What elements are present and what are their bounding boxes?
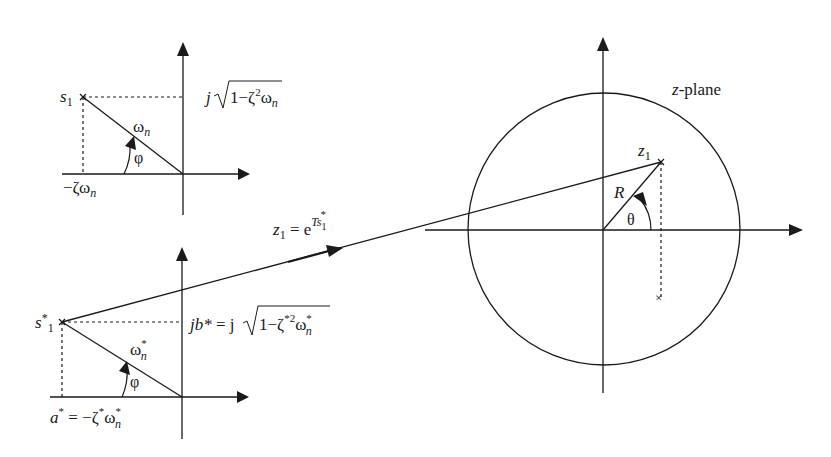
svg-text:jb* = j: jb* = j — [188, 315, 235, 334]
s-to-z-plane-mapping-diagram: s1 j 1−ζ2ωn −ζωn ωn φ s*1 jb* = j 1−ζ*2ω… — [0, 0, 831, 457]
bottom-s-real-label: a* = −ζ*ω*n — [50, 405, 121, 431]
z-angle-label: θ — [627, 211, 635, 228]
mapping-arrow-head-icon — [326, 245, 343, 257]
top-s-angle-arrow-icon — [125, 136, 136, 150]
svg-text:1−ζ2ωn: 1−ζ2ωn — [230, 86, 278, 110]
top-s-imag-axis-arrow-icon — [177, 42, 189, 56]
z-plane: × z-plane z1 R θ — [425, 37, 803, 393]
top-s-magnitude-label: ωn — [133, 117, 150, 139]
bottom-s-angle-label: φ — [130, 373, 139, 391]
z-plane-title: z-plane — [671, 80, 721, 99]
bottom-s-magnitude-label: ω*n — [130, 337, 147, 363]
top-s-real-axis-arrow-icon — [238, 168, 250, 180]
bottom-s-vector — [62, 322, 182, 397]
mapping-line — [62, 162, 661, 322]
diagram-svg: s1 j 1−ζ2ωn −ζωn ωn φ s*1 jb* = j 1−ζ*2ω… — [0, 0, 831, 457]
top-s-pole-label: s1 — [60, 87, 73, 109]
top-s-angle-arc — [124, 144, 130, 174]
z-radius-label: R — [613, 183, 625, 202]
z-real-axis-arrow-icon — [789, 224, 803, 236]
mapping-label: z1 = eTs1* — [272, 208, 327, 242]
bottom-s-pole-label: s*1 — [35, 311, 54, 335]
bottom-s-imag-label: jb* = j 1−ζ*2ω*n — [188, 306, 330, 338]
bottom-s-plane: s*1 jb* = j 1−ζ*2ω*n a* = −ζ*ω*n ω*n φ — [35, 247, 330, 439]
top-s-imag-label: j 1−ζ2ωn — [204, 81, 282, 110]
z-conjugate-pole-marker-icon: × — [655, 290, 662, 305]
bottom-s-imag-axis-arrow-icon — [176, 247, 188, 261]
svg-text:1−ζ*2ω*n: 1−ζ*2ω*n — [259, 312, 312, 338]
z-pole-label: z1 — [637, 141, 651, 163]
z-angle-arrow-icon — [633, 192, 647, 206]
top-s-real-label: −ζωn — [63, 178, 96, 200]
top-s-plane: s1 j 1−ζ2ωn −ζωn ωn φ — [60, 42, 282, 215]
top-s-angle-label: φ — [134, 149, 143, 167]
z-imag-axis-arrow-icon — [597, 37, 609, 51]
svg-text:j: j — [204, 88, 211, 107]
mapping-arrow: z1 = eTs1* — [62, 162, 661, 322]
bottom-s-real-axis-arrow-icon — [237, 391, 249, 403]
